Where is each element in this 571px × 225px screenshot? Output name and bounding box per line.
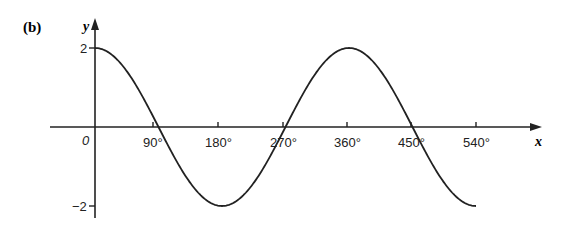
x-tick-540: 540° bbox=[463, 135, 490, 150]
part-label: (b) bbox=[23, 19, 41, 36]
x-axis-label: x bbox=[534, 134, 542, 149]
origin-label: 0 bbox=[82, 133, 90, 148]
x-tick-90: 90° bbox=[143, 135, 163, 150]
x-tick-360: 360° bbox=[334, 135, 361, 150]
y-tick-neg2: −2 bbox=[72, 199, 87, 214]
y-tick-2: 2 bbox=[80, 41, 87, 56]
y-axis-label: y bbox=[81, 19, 90, 34]
x-axis-arrow-icon bbox=[530, 123, 542, 131]
x-tick-180: 180° bbox=[205, 135, 232, 150]
y-axis-arrow-icon bbox=[91, 18, 99, 30]
cosine-graph: (b) y x 0 2 −2 90° 180° 270° 360° 450° 5… bbox=[0, 0, 571, 225]
